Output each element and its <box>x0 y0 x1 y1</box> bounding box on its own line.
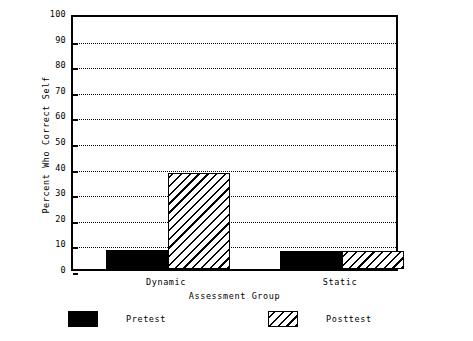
gridline <box>73 68 396 69</box>
gridline <box>73 196 396 197</box>
bar-chart-figure: Percent Who Correct Self 010203040506070… <box>0 0 473 341</box>
gridline <box>73 247 396 248</box>
gridline <box>73 43 396 44</box>
gridline <box>73 119 396 120</box>
y-axis-tick-label: 70 <box>38 87 66 96</box>
gridline <box>73 171 396 172</box>
legend-swatch-posttest <box>268 311 298 327</box>
gridline <box>73 145 396 146</box>
x-axis-title: Assessment Group <box>71 291 398 301</box>
y-axis-tick-label: 10 <box>38 240 66 249</box>
bar-static-posttest <box>342 251 404 269</box>
legend-item-pretest: Pretest <box>68 310 166 328</box>
x-axis-category-label: Dynamic <box>106 277 226 287</box>
gridline <box>73 222 396 223</box>
chart-legend: Pretest Posttest <box>0 310 473 334</box>
y-axis-tick <box>73 43 78 45</box>
y-axis-tick-label: 20 <box>38 215 66 224</box>
x-axis-category-label: Static <box>280 277 400 287</box>
y-axis-tick-label: 0 <box>38 266 66 275</box>
y-axis-tick-label: 100 <box>38 10 66 19</box>
y-axis-tick <box>73 247 78 249</box>
y-axis-tick-label: 60 <box>38 112 66 121</box>
y-axis-tick-label: 50 <box>38 138 66 147</box>
legend-label-posttest: Posttest <box>326 314 372 324</box>
y-axis-tick <box>73 222 78 224</box>
bar-dynamic-pretest <box>106 250 168 269</box>
y-axis-tick <box>73 119 78 121</box>
y-axis-tick-label: 40 <box>38 164 66 173</box>
y-axis-tick-label: 30 <box>38 189 66 198</box>
y-axis-tick <box>73 196 78 198</box>
legend-swatch-pretest <box>68 311 98 327</box>
y-axis-tick <box>73 171 78 173</box>
y-axis-tick <box>73 68 78 70</box>
plot-area <box>71 15 398 271</box>
legend-label-pretest: Pretest <box>126 314 166 324</box>
gridline <box>73 94 396 95</box>
y-axis-tick-label: 80 <box>38 61 66 70</box>
y-axis-tick <box>73 94 78 96</box>
y-axis-tick <box>73 273 78 275</box>
legend-item-posttest: Posttest <box>268 310 372 328</box>
y-axis-tick <box>73 145 78 147</box>
y-axis-tick-label: 90 <box>38 36 66 45</box>
bar-dynamic-posttest <box>168 173 230 269</box>
plot-inner <box>73 17 396 269</box>
bar-static-pretest <box>280 251 342 269</box>
